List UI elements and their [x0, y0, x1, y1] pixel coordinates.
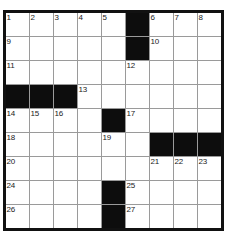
letter-cell[interactable]	[54, 61, 77, 84]
crossword-frame: 1234567891011121314151617181920212223242…	[3, 10, 224, 231]
letter-cell[interactable]	[174, 85, 197, 108]
letter-cell[interactable]	[174, 109, 197, 132]
letter-cell[interactable]	[174, 61, 197, 84]
letter-cell[interactable]	[198, 37, 221, 60]
clue-number: 21	[151, 157, 160, 166]
letter-cell[interactable]: 7	[174, 13, 197, 36]
clue-number: 6	[151, 13, 155, 22]
clue-number: 12	[127, 61, 136, 70]
letter-cell[interactable]: 19	[102, 133, 125, 156]
letter-cell[interactable]	[78, 157, 101, 180]
letter-cell[interactable]	[102, 61, 125, 84]
letter-cell[interactable]: 17	[126, 109, 149, 132]
letter-cell[interactable]	[102, 37, 125, 60]
letter-cell[interactable]: 24	[6, 181, 29, 204]
letter-cell[interactable]: 12	[126, 61, 149, 84]
letter-cell[interactable]	[54, 133, 77, 156]
letter-cell[interactable]	[54, 37, 77, 60]
letter-cell[interactable]	[78, 37, 101, 60]
letter-cell[interactable]: 4	[78, 13, 101, 36]
letter-cell[interactable]: 14	[6, 109, 29, 132]
letter-cell[interactable]: 10	[150, 37, 173, 60]
letter-cell[interactable]: 2	[30, 13, 53, 36]
letter-cell[interactable]: 23	[198, 157, 221, 180]
clue-number: 9	[7, 37, 11, 46]
clue-number: 5	[103, 13, 107, 22]
block-cell	[126, 13, 149, 36]
letter-cell[interactable]	[198, 181, 221, 204]
letter-cell[interactable]: 16	[54, 109, 77, 132]
letter-cell[interactable]	[150, 205, 173, 228]
clue-number: 18	[7, 133, 16, 142]
letter-cell[interactable]: 3	[54, 13, 77, 36]
letter-cell[interactable]: 27	[126, 205, 149, 228]
letter-cell[interactable]	[198, 109, 221, 132]
letter-cell[interactable]	[126, 85, 149, 108]
letter-cell[interactable]	[150, 85, 173, 108]
letter-cell[interactable]	[174, 205, 197, 228]
letter-cell[interactable]: 22	[174, 157, 197, 180]
letter-cell[interactable]: 21	[150, 157, 173, 180]
letter-cell[interactable]	[30, 181, 53, 204]
letter-cell[interactable]: 5	[102, 13, 125, 36]
block-cell	[102, 205, 125, 228]
letter-cell[interactable]	[174, 37, 197, 60]
clue-number: 2	[31, 13, 35, 22]
clue-number: 4	[79, 13, 83, 22]
letter-cell[interactable]	[78, 181, 101, 204]
letter-cell[interactable]	[150, 181, 173, 204]
letter-cell[interactable]	[150, 109, 173, 132]
letter-cell[interactable]: 8	[198, 13, 221, 36]
block-cell	[198, 133, 221, 156]
letter-cell[interactable]	[30, 205, 53, 228]
clue-number: 15	[31, 109, 40, 118]
letter-cell[interactable]	[78, 133, 101, 156]
letter-cell[interactable]: 13	[78, 85, 101, 108]
crossword-puzzle: 1234567891011121314151617181920212223242…	[0, 0, 226, 240]
clue-number: 13	[79, 85, 88, 94]
letter-cell[interactable]	[126, 157, 149, 180]
letter-cell[interactable]	[30, 37, 53, 60]
block-cell	[102, 109, 125, 132]
block-cell	[6, 85, 29, 108]
letter-cell[interactable]: 11	[6, 61, 29, 84]
letter-cell[interactable]: 25	[126, 181, 149, 204]
letter-cell[interactable]: 9	[6, 37, 29, 60]
clue-number: 20	[7, 157, 16, 166]
letter-cell[interactable]: 18	[6, 133, 29, 156]
letter-cell[interactable]: 6	[150, 13, 173, 36]
block-cell	[126, 37, 149, 60]
clue-number: 7	[175, 13, 179, 22]
block-cell	[150, 133, 173, 156]
letter-cell[interactable]	[54, 205, 77, 228]
clue-number: 25	[127, 181, 136, 190]
clue-number: 16	[55, 109, 64, 118]
letter-cell[interactable]	[30, 61, 53, 84]
letter-cell[interactable]	[78, 205, 101, 228]
letter-cell[interactable]	[54, 181, 77, 204]
letter-cell[interactable]	[30, 133, 53, 156]
letter-cell[interactable]	[150, 61, 173, 84]
letter-cell[interactable]	[198, 205, 221, 228]
clue-number: 3	[55, 13, 59, 22]
block-cell	[174, 133, 197, 156]
letter-cell[interactable]	[54, 157, 77, 180]
letter-cell[interactable]: 26	[6, 205, 29, 228]
letter-cell[interactable]	[198, 61, 221, 84]
clue-number: 1	[7, 13, 11, 22]
letter-cell[interactable]: 15	[30, 109, 53, 132]
clue-number: 8	[199, 13, 203, 22]
letter-cell[interactable]	[78, 109, 101, 132]
letter-cell[interactable]	[126, 133, 149, 156]
letter-cell[interactable]	[102, 85, 125, 108]
letter-cell[interactable]	[30, 157, 53, 180]
block-cell	[30, 85, 53, 108]
letter-cell[interactable]	[198, 85, 221, 108]
letter-cell[interactable]	[174, 181, 197, 204]
letter-cell[interactable]	[102, 157, 125, 180]
letter-cell[interactable]: 1	[6, 13, 29, 36]
crossword-grid: 1234567891011121314151617181920212223242…	[6, 13, 221, 228]
letter-cell[interactable]	[78, 61, 101, 84]
letter-cell[interactable]: 20	[6, 157, 29, 180]
clue-number: 17	[127, 109, 136, 118]
